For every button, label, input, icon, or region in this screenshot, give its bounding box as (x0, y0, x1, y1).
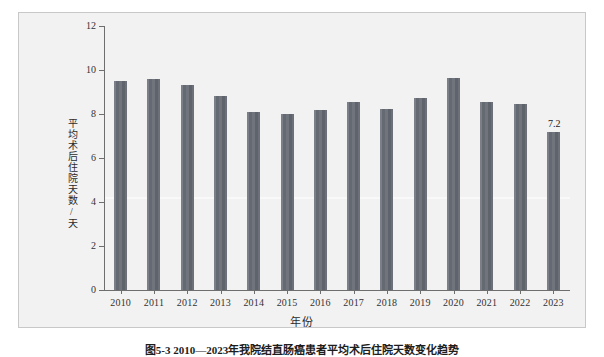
bar (514, 104, 527, 290)
y-axis-tick (99, 114, 104, 115)
bar (181, 85, 194, 290)
x-axis-tick (454, 290, 455, 294)
bar (214, 96, 227, 290)
bar (447, 78, 460, 290)
y-axis-tick (99, 26, 104, 27)
y-axis-tick-label: 10 (70, 65, 96, 75)
x-axis-line (104, 290, 570, 291)
y-axis-title: 平均术后住院天数/天 (64, 118, 78, 229)
y-axis-line (104, 26, 105, 290)
y-axis-tick-label-text: 12 (74, 21, 96, 31)
x-axis-tick (387, 290, 388, 294)
bar (247, 112, 260, 290)
x-axis-tick (487, 290, 488, 294)
plot-highlight-band (105, 197, 570, 199)
y-axis-tick-label-text: 2 (74, 241, 96, 251)
bar (114, 81, 127, 290)
bar (380, 109, 393, 291)
x-axis-title: 年份 (0, 313, 604, 329)
x-axis-tick (320, 290, 321, 294)
x-axis-tick (121, 290, 122, 294)
y-axis-tick-label: 12 (70, 21, 96, 31)
x-axis-tick (187, 290, 188, 294)
x-axis-tick (420, 290, 421, 294)
bar (314, 110, 327, 290)
figure-caption: 图5-3 2010—2023年我院结直肠癌患者平均术后住院天数变化趋势 (0, 344, 604, 357)
bar-value-label: 7.2 (534, 119, 574, 129)
y-axis-tick (99, 290, 104, 291)
x-axis-tick (354, 290, 355, 294)
y-axis-tick (99, 246, 104, 247)
bar (414, 98, 427, 291)
x-axis-tick (553, 290, 554, 294)
bar (347, 102, 360, 290)
x-axis-tick (154, 290, 155, 294)
y-axis-tick-label-text: 10 (74, 65, 96, 75)
x-axis-tick (254, 290, 255, 294)
x-axis-tick (520, 290, 521, 294)
y-axis-tick-label: 0 (70, 285, 96, 295)
bar (547, 132, 560, 290)
y-axis-tick-label: 2 (70, 241, 96, 251)
bar (147, 79, 160, 290)
x-axis-tick (221, 290, 222, 294)
bar (281, 114, 294, 290)
bar (480, 102, 493, 290)
x-axis-tick (287, 290, 288, 294)
x-axis-tick-label: 2023 (533, 297, 573, 309)
y-axis-tick (99, 158, 104, 159)
y-axis-tick (99, 202, 104, 203)
y-axis-tick (99, 70, 104, 71)
y-axis-tick-label-text: 0 (74, 285, 96, 295)
